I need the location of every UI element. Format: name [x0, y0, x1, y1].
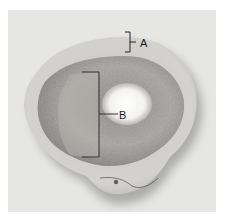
- bone-photo: [8, 10, 216, 212]
- medullary-cavity: [102, 83, 152, 125]
- bone-illustration: [8, 10, 216, 212]
- label-a: A: [140, 38, 147, 49]
- label-b: B: [119, 110, 126, 121]
